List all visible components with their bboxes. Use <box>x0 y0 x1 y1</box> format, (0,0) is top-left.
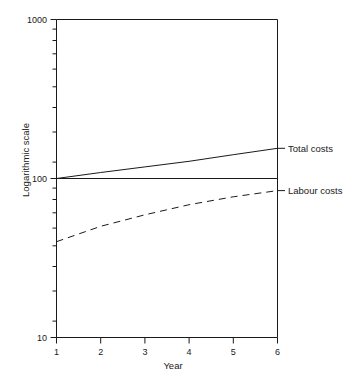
x-tick-label-2: 2 <box>98 347 103 357</box>
chart-container: 1000 100 10 1 2 3 4 5 6 Year Logarithmic… <box>0 0 346 377</box>
x-tick-label-3: 3 <box>142 347 147 357</box>
x-axis-title: Year <box>163 360 182 371</box>
series-label-total-costs: Total costs <box>288 143 333 154</box>
x-tick-label-6: 6 <box>275 347 280 357</box>
x-tick-label-4: 4 <box>187 347 192 357</box>
y-tick-label-100: 100 <box>32 174 47 184</box>
x-tick-label-5: 5 <box>231 347 236 357</box>
x-tick-label-1: 1 <box>54 347 59 357</box>
series-label-labour-costs: Labour costs <box>288 185 343 196</box>
y-axis-title: Logarithmic scale <box>20 123 31 197</box>
y-tick-label-1000: 1000 <box>27 15 47 25</box>
y-tick-label-10: 10 <box>37 333 47 343</box>
log-scale-line-chart: 1000 100 10 1 2 3 4 5 6 Year Logarithmic… <box>0 0 346 377</box>
